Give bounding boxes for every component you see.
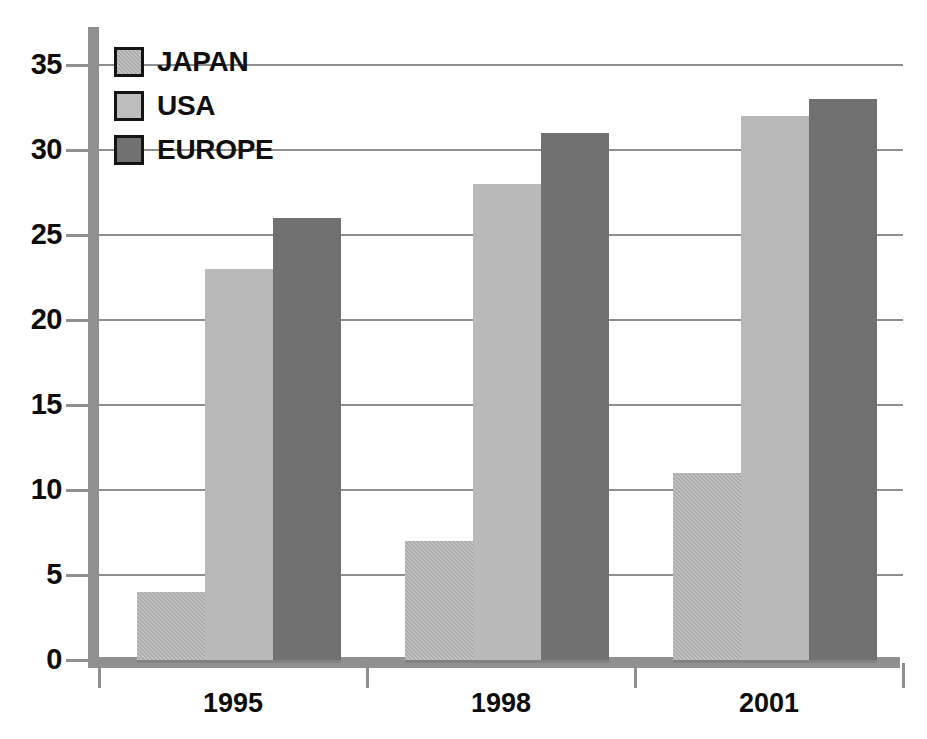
legend-label: EUROPE	[157, 136, 273, 164]
bar-europe-2001	[809, 99, 877, 660]
x-axis-label-1998: 1998	[431, 690, 571, 717]
legend-swatch-europe-icon	[114, 135, 144, 165]
y-tick-label: 15	[0, 390, 62, 419]
y-tick-label: 30	[0, 135, 62, 164]
bar-chart: 05101520253035 199519982001 JAPANUSAEURO…	[0, 0, 927, 739]
chart-legend: JAPANUSAEUROPE	[114, 41, 273, 173]
x-axis-label-2001: 2001	[699, 690, 839, 717]
bar-europe-1998	[541, 133, 609, 660]
y-axis-line	[88, 27, 99, 668]
legend-item-japan[interactable]: JAPAN	[114, 41, 273, 83]
bar-japan-2001	[673, 473, 741, 660]
bar-usa-1995	[205, 269, 273, 660]
bar-japan-1998	[405, 541, 473, 660]
x-tick-mark	[98, 663, 101, 688]
bar-usa-1998	[473, 184, 541, 660]
x-tick-mark	[634, 663, 637, 688]
legend-swatch-japan-icon	[114, 47, 144, 77]
legend-item-usa[interactable]: USA	[114, 85, 273, 127]
y-tick-label: 5	[0, 560, 62, 589]
legend-label: USA	[157, 92, 215, 120]
y-tick-label: 25	[0, 220, 62, 249]
x-axis-label-1995: 1995	[163, 690, 303, 717]
y-tick-label: 0	[0, 645, 62, 674]
bar-europe-1995	[273, 218, 341, 660]
bar-japan-1995	[137, 592, 205, 660]
y-tick-label: 35	[0, 50, 62, 79]
y-tick-label: 10	[0, 475, 62, 504]
x-tick-mark	[902, 663, 905, 688]
x-tick-mark	[366, 663, 369, 688]
legend-swatch-usa-icon	[114, 91, 144, 121]
legend-label: JAPAN	[157, 48, 248, 76]
y-tick-label: 20	[0, 305, 62, 334]
bar-usa-2001	[741, 116, 809, 660]
legend-item-europe[interactable]: EUROPE	[114, 129, 273, 171]
